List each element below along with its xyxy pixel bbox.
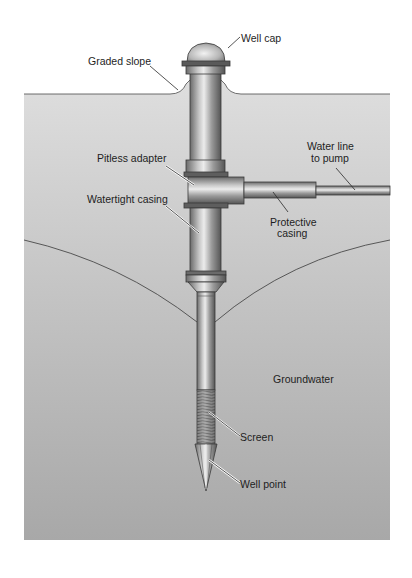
well-cap: [182, 43, 230, 74]
label-screen: Screen: [240, 431, 273, 443]
upper-casing: [190, 72, 221, 162]
label-graded-slope: Graded slope: [88, 55, 151, 67]
label-watertight-casing: Watertight casing: [87, 193, 168, 205]
label-well-point: Well point: [240, 478, 286, 490]
well-diagram: Well cap Graded slope Pitless adapter Wa…: [0, 0, 412, 578]
label-water-line-1: Water line: [307, 140, 354, 152]
watertight-casing: [190, 208, 221, 272]
label-pitless-adapter: Pitless adapter: [97, 152, 167, 164]
label-groundwater: Groundwater: [273, 373, 334, 385]
label-water-line-2: to pump: [311, 152, 349, 164]
label-protective-casing-2: casing: [277, 227, 308, 239]
drive-pipe: [197, 292, 215, 390]
protective-casing: [244, 182, 316, 198]
screen: [197, 390, 215, 444]
label-well-cap: Well cap: [241, 32, 281, 44]
